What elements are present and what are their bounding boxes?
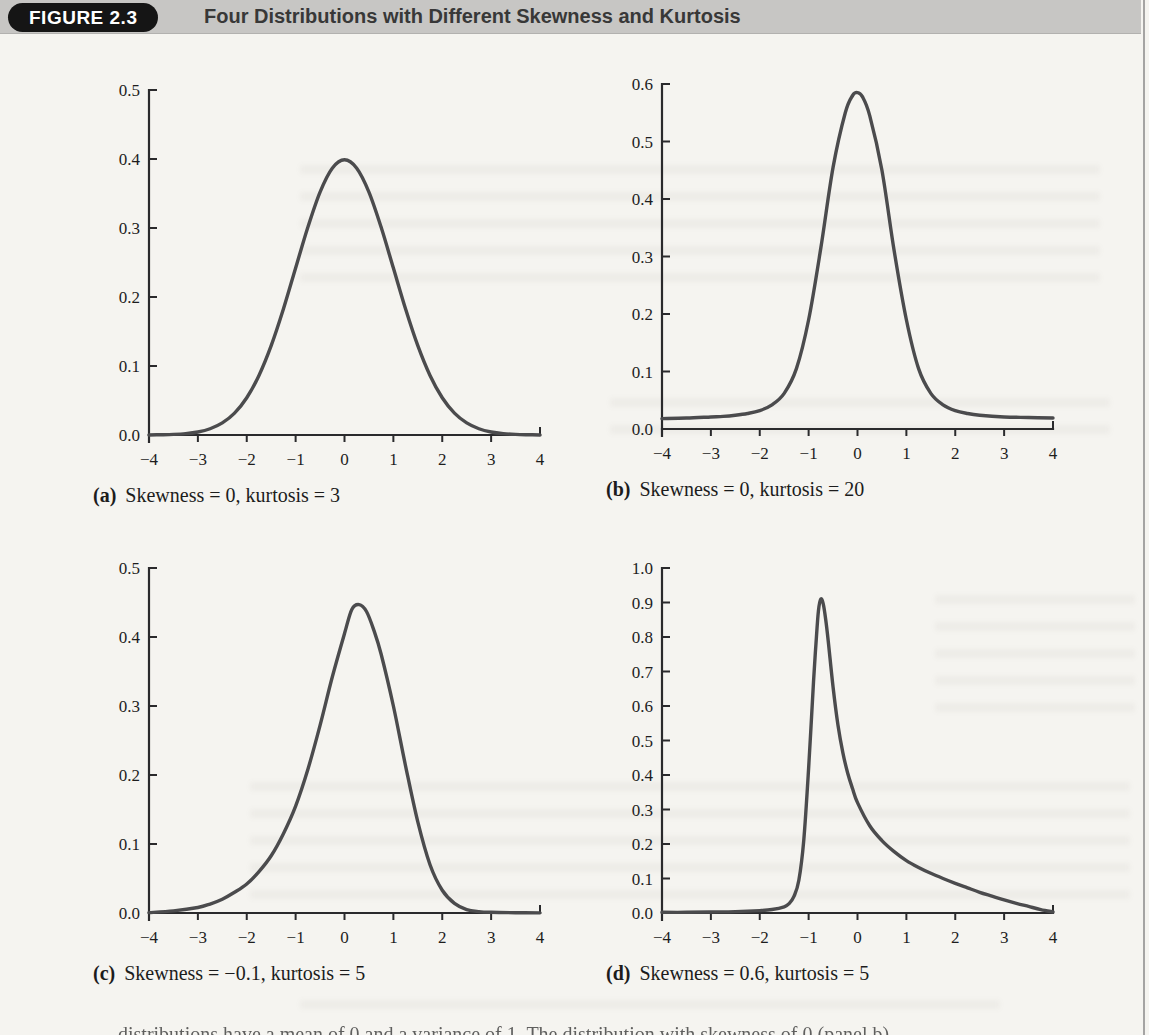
y-tick-label: 0.9 xyxy=(632,594,653,613)
y-tick-label: 0.2 xyxy=(632,835,653,854)
x-tick-label: 2 xyxy=(951,928,960,947)
y-tick-label: 0.4 xyxy=(119,628,141,647)
y-tick-label: 0.0 xyxy=(632,420,653,439)
y-tick-label: 0.4 xyxy=(632,766,654,785)
panel-a: 0.00.10.20.30.40.5−4−3−2−101234 (a)Skewn… xyxy=(85,80,555,507)
x-tick-label: 0 xyxy=(853,444,862,463)
figure-footnote-clipped: distributions have a mean of 0 and a var… xyxy=(118,1021,1128,1035)
y-tick-label: 0.3 xyxy=(632,801,653,820)
y-tick-label: 0.4 xyxy=(119,150,141,169)
x-tick-label: −2 xyxy=(238,928,256,947)
panel-d-caption-label: (d) xyxy=(606,962,630,984)
panel-b-caption-label: (b) xyxy=(606,478,630,500)
chart-svg-panel-c: 0.00.10.20.30.40.5−4−3−2−101234 xyxy=(85,558,555,948)
y-tick-label: 0.4 xyxy=(632,190,654,209)
panel-d-caption: (d)Skewness = 0.6, kurtosis = 5 xyxy=(606,962,1068,985)
x-tick-label: 3 xyxy=(487,450,496,469)
panel-c-caption-text: Skewness = −0.1, kurtosis = 5 xyxy=(124,962,365,984)
distribution-curve xyxy=(149,160,540,435)
x-tick-label: −3 xyxy=(189,928,207,947)
y-tick-label: 0.2 xyxy=(632,305,653,324)
x-tick-label: −2 xyxy=(751,928,769,947)
x-tick-label: −1 xyxy=(287,928,305,947)
chart-panel-b: 0.00.10.20.30.40.50.6−4−3−2−101234 xyxy=(598,74,1068,464)
x-tick-label: 1 xyxy=(902,928,911,947)
y-tick-label: 0.3 xyxy=(632,248,653,267)
y-tick-label: 0.2 xyxy=(119,766,140,785)
chart-svg-panel-a: 0.00.10.20.30.40.5−4−3−2−101234 xyxy=(85,80,555,470)
y-tick-label: 0.0 xyxy=(119,426,140,445)
x-tick-label: 0 xyxy=(340,928,349,947)
y-tick-label: 0.2 xyxy=(119,288,140,307)
y-tick-label: 0.1 xyxy=(119,357,140,376)
x-tick-label: 1 xyxy=(389,450,398,469)
x-tick-label: 1 xyxy=(902,444,911,463)
x-tick-label: −2 xyxy=(751,444,769,463)
x-tick-label: −4 xyxy=(653,444,672,463)
chart-panel-d: 0.00.10.20.30.40.50.60.70.80.91.0−4−3−2−… xyxy=(598,558,1068,948)
distribution-curve xyxy=(149,604,540,912)
panel-a-caption: (a)Skewness = 0, kurtosis = 3 xyxy=(93,484,555,507)
panel-d-caption-text: Skewness = 0.6, kurtosis = 5 xyxy=(639,962,869,984)
chart-panel-c: 0.00.10.20.30.40.5−4−3−2−101234 xyxy=(85,558,555,948)
x-tick-label: 2 xyxy=(438,450,447,469)
x-tick-label: −1 xyxy=(800,928,818,947)
x-tick-label: 1 xyxy=(389,928,398,947)
chart-panel-a: 0.00.10.20.30.40.5−4−3−2−101234 xyxy=(85,80,555,470)
panel-c-caption: (c)Skewness = −0.1, kurtosis = 5 xyxy=(93,962,555,985)
distribution-curve xyxy=(662,599,1053,913)
y-tick-label: 0.1 xyxy=(119,835,140,854)
x-tick-label: 0 xyxy=(340,450,349,469)
x-tick-label: 2 xyxy=(951,444,960,463)
page-bleed-through xyxy=(300,1000,1000,1016)
x-tick-label: −3 xyxy=(702,444,720,463)
figure-header: FIGURE 2.3 Four Distributions with Diffe… xyxy=(0,0,1141,34)
panel-b-caption: (b)Skewness = 0, kurtosis = 20 xyxy=(606,478,1068,501)
y-tick-label: 0.0 xyxy=(632,904,653,923)
x-tick-label: −1 xyxy=(287,450,305,469)
y-tick-label: 0.3 xyxy=(119,697,140,716)
y-tick-label: 0.6 xyxy=(632,697,653,716)
x-tick-label: −1 xyxy=(800,444,818,463)
panel-d: 0.00.10.20.30.40.50.60.70.80.91.0−4−3−2−… xyxy=(598,558,1068,985)
x-tick-label: −2 xyxy=(238,450,256,469)
x-tick-label: 4 xyxy=(536,450,545,469)
x-tick-label: 3 xyxy=(1000,444,1009,463)
panel-c: 0.00.10.20.30.40.5−4−3−2−101234 (c)Skewn… xyxy=(85,558,555,985)
y-tick-label: 0.5 xyxy=(632,133,653,152)
y-tick-label: 0.0 xyxy=(119,904,140,923)
x-tick-label: −4 xyxy=(140,450,159,469)
y-tick-label: 0.3 xyxy=(119,219,140,238)
panel-b-caption-text: Skewness = 0, kurtosis = 20 xyxy=(639,478,864,500)
x-tick-label: −4 xyxy=(140,928,159,947)
y-tick-label: 0.7 xyxy=(632,663,654,682)
chart-svg-panel-d: 0.00.10.20.30.40.50.60.70.80.91.0−4−3−2−… xyxy=(598,558,1068,948)
x-tick-label: 3 xyxy=(1000,928,1009,947)
y-tick-label: 0.6 xyxy=(632,75,653,94)
x-tick-label: 4 xyxy=(536,928,545,947)
y-tick-label: 0.8 xyxy=(632,628,653,647)
figure-title: Four Distributions with Different Skewne… xyxy=(204,0,741,33)
distribution-curve xyxy=(662,93,1053,419)
y-tick-label: 0.5 xyxy=(632,732,653,751)
x-tick-label: 4 xyxy=(1049,444,1058,463)
panel-b: 0.00.10.20.30.40.50.6−4−3−2−101234 (b)Sk… xyxy=(598,74,1068,501)
x-tick-label: −3 xyxy=(189,450,207,469)
page-edge-line xyxy=(1143,0,1145,1035)
x-tick-label: 2 xyxy=(438,928,447,947)
x-tick-label: −3 xyxy=(702,928,720,947)
y-tick-label: 0.5 xyxy=(119,81,140,100)
x-tick-label: 0 xyxy=(853,928,862,947)
y-tick-label: 0.1 xyxy=(632,870,653,889)
y-tick-label: 0.1 xyxy=(632,363,653,382)
panel-a-caption-text: Skewness = 0, kurtosis = 3 xyxy=(125,484,340,506)
chart-svg-panel-b: 0.00.10.20.30.40.50.6−4−3−2−101234 xyxy=(598,74,1068,464)
figure-number-badge: FIGURE 2.3 xyxy=(8,3,158,32)
panel-c-caption-label: (c) xyxy=(93,962,115,984)
x-tick-label: 4 xyxy=(1049,928,1058,947)
y-tick-label: 0.5 xyxy=(119,559,140,578)
panel-a-caption-label: (a) xyxy=(93,484,116,506)
x-tick-label: −4 xyxy=(653,928,672,947)
y-tick-label: 1.0 xyxy=(632,559,653,578)
x-tick-label: 3 xyxy=(487,928,496,947)
